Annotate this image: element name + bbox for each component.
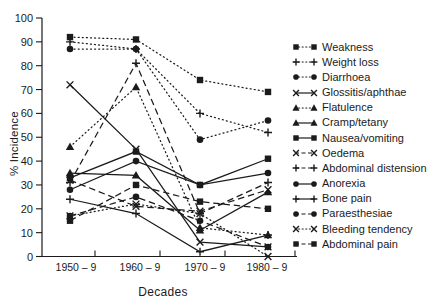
circle-marker [133,194,140,201]
series-line-nausea-vomiting [70,152,268,185]
triangle-marker [132,83,140,91]
series-line-cramp-tetany [70,173,268,230]
circle-marker [67,46,74,53]
plus-marker [264,179,272,187]
x-tick-label: 1950 – 9 [56,261,97,273]
plus-marker [264,128,272,136]
y-tick-label: 30 [21,179,33,191]
series-line-bleeding-tendency [70,204,268,256]
circle-marker [197,182,204,189]
series-line-abdominal-pain [70,185,268,221]
plus-marker [196,248,204,256]
circle-marker [265,117,272,124]
square-marker [197,77,203,83]
y-tick-label: 80 [21,60,33,72]
x-tick-label: 1980 – 9 [247,261,288,273]
x-marker [67,81,74,88]
y-axis-title: % Incidence [8,111,20,176]
square-marker [265,206,271,212]
symptom-incidence-figure: 01020304050607080901001950 – 91960 – 919… [0,0,436,308]
x-tick-label: 1960 – 9 [120,261,161,273]
x-axis-title: Decades [138,285,187,299]
circle-marker [265,244,272,251]
circle-marker [133,46,140,53]
series-line-diarrhoea [70,49,268,140]
circle-marker [197,136,204,143]
plus-marker [66,195,74,203]
circle-marker [67,186,74,193]
square-marker [265,156,271,162]
circle-marker [197,217,204,224]
series-line-abdominal-distension [70,63,268,213]
series-line-flatulence [70,87,268,235]
axes [42,18,297,257]
y-tick-label: 60 [21,107,33,119]
chart-canvas: 01020304050607080901001950 – 91960 – 919… [0,0,436,308]
y-tick-label: 70 [21,84,33,96]
circle-marker [265,170,272,177]
square-marker [197,198,203,204]
square-marker [265,89,271,95]
square-marker [133,36,139,42]
circle-marker [133,158,140,165]
y-tick-label: 0 [27,251,33,263]
y-tick-label: 100 [15,12,33,24]
plus-marker [132,210,140,218]
x-tick-label: 1970 – 9 [185,261,226,273]
plus-marker [132,59,140,67]
y-tick-label: 50 [21,131,33,143]
square-marker [133,148,139,154]
y-tick-label: 20 [21,203,33,215]
y-tick-label: 40 [21,155,33,167]
y-tick-label: 10 [21,227,33,239]
square-marker [133,182,139,188]
y-tick-label: 90 [21,36,33,48]
square-marker [67,218,73,224]
